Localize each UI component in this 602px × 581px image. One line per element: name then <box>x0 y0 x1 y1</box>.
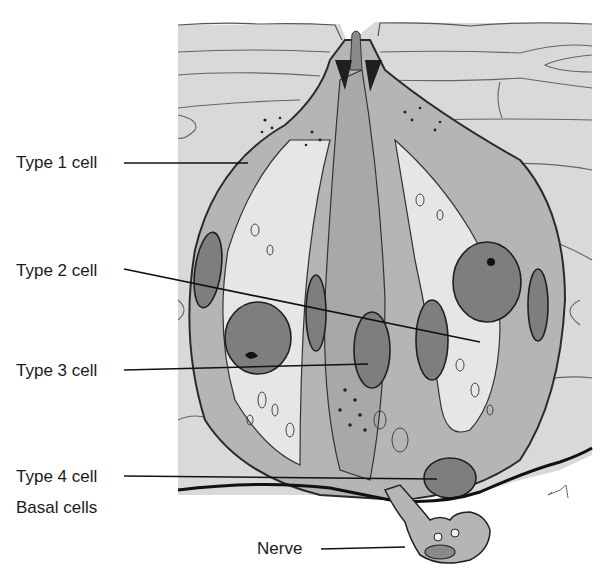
nucleus-type2-left <box>225 302 291 374</box>
taste-bud-diagram: Type 1 cell Type 2 cell Type 3 cell Type… <box>0 0 602 581</box>
nucleolus-right <box>487 258 495 266</box>
label-type2-cell: Type 2 cell <box>16 262 97 279</box>
nucleus-type3-central <box>354 312 390 388</box>
label-nerve: Nerve <box>257 540 302 557</box>
nucleus-type2-right <box>453 242 521 322</box>
nucleus-type1-right <box>416 300 448 380</box>
leader-nerve <box>321 547 405 549</box>
artist-signature <box>548 485 568 498</box>
nucleus-type1-far-right <box>528 269 548 341</box>
label-type1-cell: Type 1 cell <box>16 154 97 171</box>
nucleus-basal <box>424 458 476 498</box>
nucleus-type3-left <box>306 275 326 351</box>
taste-pore-tip <box>350 31 362 70</box>
label-type3-cell: Type 3 cell <box>16 362 97 379</box>
label-basal-cells: Basal cells <box>16 499 97 516</box>
taste-bud-illustration <box>0 0 602 581</box>
nerve-axon <box>425 545 455 559</box>
label-type4-cell: Type 4 cell <box>16 468 97 485</box>
